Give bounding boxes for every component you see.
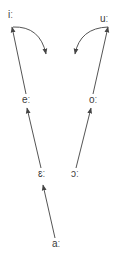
vowel-label-i: iː xyxy=(8,10,13,20)
arrow-a-to-epsilon xyxy=(43,185,55,238)
vowel-label-open-e: ɛː xyxy=(38,169,45,179)
arrow-o-to-u xyxy=(93,27,108,94)
vowel-label-e: eː xyxy=(22,95,30,105)
vowel-label-o: oː xyxy=(89,95,97,105)
vowel-shift-diagram: iː uː eː oː ɛː ɔː aː xyxy=(0,0,116,261)
vowel-label-u: uː xyxy=(100,14,108,24)
arrows-layer xyxy=(0,0,116,261)
arrow-openo-to-o xyxy=(76,108,91,168)
vowel-label-open-o: ɔː xyxy=(71,169,79,179)
arrow-epsilon-to-e xyxy=(27,108,41,168)
arrow-e-to-i xyxy=(12,27,26,94)
vowel-label-a: aː xyxy=(52,239,60,249)
curved-arrow-i-diphthong xyxy=(13,27,46,54)
